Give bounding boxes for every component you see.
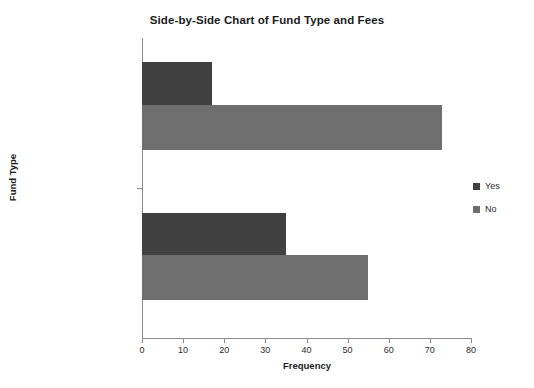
x-tick-label-0: 0 <box>122 345 162 355</box>
x-tick-label-80: 80 <box>451 345 491 355</box>
x-tick-40 <box>307 338 308 343</box>
plot-area <box>142 38 471 338</box>
x-tick-70 <box>430 338 431 343</box>
y-axis-title: Fund Type <box>7 148 18 208</box>
bar-yes-2 <box>142 213 286 255</box>
chart-legend: YesNo <box>473 181 500 227</box>
x-tick-label-60: 60 <box>369 345 409 355</box>
y-tick-0 <box>137 188 142 189</box>
legend-label-yes: Yes <box>485 181 500 191</box>
x-tick-10 <box>183 338 184 343</box>
x-tick-label-10: 10 <box>163 345 203 355</box>
chart-title: Side-by-Side Chart of Fund Type and Fees <box>0 14 534 26</box>
x-tick-50 <box>348 338 349 343</box>
x-tick-30 <box>265 338 266 343</box>
x-tick-60 <box>389 338 390 343</box>
x-axis-title: Frequency <box>142 360 472 371</box>
legend-swatch-icon-yes <box>473 183 480 190</box>
x-tick-0 <box>142 338 143 343</box>
legend-item-yes[interactable]: Yes <box>473 181 500 191</box>
x-tick-label-30: 30 <box>245 345 285 355</box>
x-tick-label-20: 20 <box>204 345 244 355</box>
bar-no-1 <box>142 105 442 150</box>
legend-swatch-icon-no <box>473 206 480 213</box>
x-tick-label-40: 40 <box>287 345 327 355</box>
legend-label-no: No <box>485 204 497 214</box>
x-tick-20 <box>224 338 225 343</box>
chart-figure: Side-by-Side Chart of Fund Type and Fees… <box>0 0 534 388</box>
x-tick-80 <box>471 338 472 343</box>
bar-no-3 <box>142 255 368 300</box>
x-tick-label-70: 70 <box>410 345 450 355</box>
legend-item-no[interactable]: No <box>473 204 500 214</box>
x-tick-label-50: 50 <box>328 345 368 355</box>
bar-yes-0 <box>142 62 212 105</box>
